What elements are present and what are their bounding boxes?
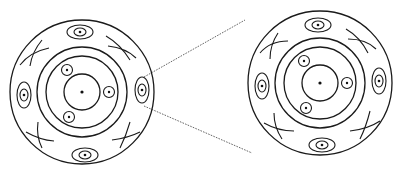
left-cross-section [10, 20, 154, 164]
eye-ellipse-bottom [72, 148, 98, 162]
right-cross-section [248, 11, 392, 155]
eye-ellipse-left [255, 73, 269, 99]
crossing-arcs-bottom-right [350, 111, 380, 139]
eye-ellipse-right [372, 68, 386, 94]
small-circle [64, 112, 75, 123]
small-circle [342, 78, 353, 89]
zoom-line-top [144, 20, 245, 77]
eye-ellipse-left [17, 82, 31, 108]
zoom-line-bottom [144, 106, 252, 153]
zoom-connector-lines [144, 20, 252, 153]
eye-ellipse-bottom [309, 138, 335, 152]
small-circle [299, 56, 310, 67]
crossing-arcs-top-left [20, 40, 49, 66]
cross-section-diagram [0, 0, 400, 175]
center-dot [318, 81, 321, 84]
small-circle [104, 87, 115, 98]
eye-ellipse-top [67, 25, 93, 39]
eye-ellipse-top [305, 18, 331, 32]
crossing-arcs-bottom-right [112, 122, 140, 148]
diagram-canvas [0, 0, 400, 175]
small-circle [301, 103, 312, 114]
center-dot [80, 90, 83, 93]
small-circle [62, 65, 73, 76]
eye-ellipse-right [135, 77, 149, 103]
crossing-arcs-bottom-left [26, 122, 54, 148]
